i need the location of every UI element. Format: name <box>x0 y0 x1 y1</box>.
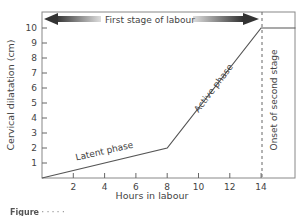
y-tick-label: 3 <box>31 128 37 138</box>
first-stage-label: First stage of labour <box>105 15 195 25</box>
x-tick-label: 12 <box>224 182 235 192</box>
caption-prefix: Figure <box>10 208 39 216</box>
labour-progress-chart: 12345678910 2468101214 First stage of la… <box>0 0 308 203</box>
x-tick-label: 2 <box>70 182 76 192</box>
x-tick-label: 14 <box>255 182 267 192</box>
x-tick-label: 4 <box>102 182 108 192</box>
figure-caption: Figure · · · · · <box>10 208 64 216</box>
y-tick-label: 1 <box>31 158 37 168</box>
active-phase-label: Active phase <box>192 62 235 115</box>
y-tick-label: 5 <box>31 98 37 108</box>
x-axis-title: Hours in labour <box>116 190 189 201</box>
y-tick-label: 4 <box>31 113 37 123</box>
x-tick-label: 10 <box>193 182 205 192</box>
y-axis-ticks: 12345678910 <box>26 23 47 168</box>
y-tick-label: 8 <box>31 53 37 63</box>
latent-phase-label: Latent phase <box>75 139 135 162</box>
y-axis-title: Cervical dilatation (cm) <box>5 39 16 150</box>
caption-text: · · · · · <box>42 208 65 216</box>
onset-second-stage-label: Onset of second stage <box>269 49 279 150</box>
y-tick-label: 7 <box>31 68 37 78</box>
y-tick-label: 6 <box>31 83 37 93</box>
y-tick-label: 9 <box>31 38 37 48</box>
y-tick-label: 10 <box>26 23 38 33</box>
y-tick-label: 2 <box>31 143 37 153</box>
